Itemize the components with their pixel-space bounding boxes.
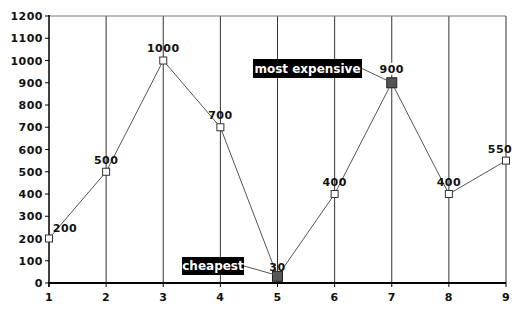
y-tick-label: 1000 — [10, 55, 43, 68]
data-label: 500 — [94, 154, 118, 167]
callout-label: most expensive — [254, 62, 360, 76]
y-tick-label: 300 — [19, 210, 43, 223]
y-tick-label: 600 — [19, 144, 43, 157]
line-chart: 0100200300400500600700800900100011001200… — [0, 0, 518, 314]
y-tick-label: 500 — [19, 166, 43, 179]
x-tick-label: 3 — [159, 291, 167, 304]
y-tick-label: 0 — [35, 277, 43, 290]
data-marker — [445, 191, 452, 198]
y-tick-label: 1200 — [10, 10, 43, 23]
y-tick-label: 1100 — [10, 32, 43, 45]
data-label: 1000 — [147, 42, 180, 55]
y-tick-label: 400 — [19, 188, 43, 201]
data-label: 400 — [322, 176, 346, 189]
data-marker — [217, 124, 224, 131]
x-tick-label: 2 — [102, 291, 110, 304]
annotations: cheapestmost expensive — [182, 59, 388, 275]
data-label: 30 — [269, 261, 285, 274]
y-tick-label: 200 — [19, 233, 43, 246]
data-marker — [160, 57, 167, 64]
x-tick-label: 6 — [331, 291, 339, 304]
x-tick-label: 8 — [445, 291, 453, 304]
data-marker — [331, 191, 338, 198]
callout-label: cheapest — [182, 259, 244, 273]
y-tick-label: 700 — [19, 121, 43, 134]
x-tick-label: 4 — [216, 291, 224, 304]
highlighted-marker — [387, 78, 397, 88]
data-marker — [503, 157, 510, 164]
y-tick-label: 800 — [19, 99, 43, 112]
data-marker — [103, 168, 110, 175]
data-label: 550 — [488, 143, 512, 156]
y-tick-label: 900 — [19, 77, 43, 90]
x-tick-label: 9 — [502, 291, 510, 304]
y-tick-label: 100 — [19, 255, 43, 268]
x-tick-label: 1 — [45, 291, 53, 304]
x-tick-label: 7 — [388, 291, 396, 304]
y-axis-ticks: 0100200300400500600700800900100011001200 — [10, 10, 49, 290]
x-axis-ticks: 123456789 — [45, 283, 510, 304]
data-label: 700 — [208, 109, 232, 122]
data-label: 400 — [437, 176, 461, 189]
vertical-gridlines — [106, 16, 506, 283]
data-label: 900 — [380, 63, 404, 76]
data-marker — [46, 235, 53, 242]
data-label: 200 — [53, 222, 77, 235]
x-tick-label: 5 — [273, 291, 281, 304]
